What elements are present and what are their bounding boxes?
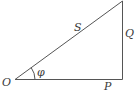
side-s-hypotenuse [15, 1, 123, 80]
label-angle-phi: φ [37, 66, 45, 79]
label-p: P [103, 80, 112, 93]
label-s: S [74, 21, 82, 34]
angle-arc [31, 68, 35, 80]
power-triangle-diagram: O φ S Q P [0, 0, 135, 101]
label-o: O [2, 76, 11, 89]
label-q: Q [125, 27, 134, 40]
